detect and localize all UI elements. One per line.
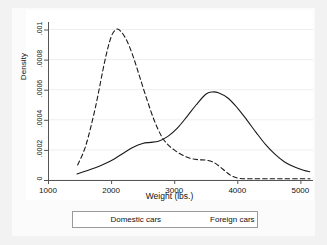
y-tick-label: .0008 xyxy=(36,43,43,73)
legend: Domestic carsForeign cars xyxy=(72,211,258,228)
legend-label: Foreign cars xyxy=(210,215,254,224)
legend-key-solid xyxy=(75,219,105,220)
y-tick-label: .0002 xyxy=(36,133,43,163)
axis-ticks xyxy=(44,30,301,184)
legend-entry[interactable]: Domestic cars xyxy=(75,215,161,224)
legend-label: Domestic cars xyxy=(110,215,161,224)
axis-lines xyxy=(48,22,313,181)
legend-key-dashed xyxy=(175,219,205,220)
x-axis-title: Weight (lbs.) xyxy=(26,191,313,201)
y-tick-label: .0006 xyxy=(36,73,43,103)
axis-layer xyxy=(0,0,327,245)
y-tick-label: .0004 xyxy=(36,103,43,133)
y-tick-label: .001 xyxy=(36,13,43,43)
chart-screenshot: Density 0.0002.0004.0006.0008.001 100020… xyxy=(0,0,327,245)
legend-entry[interactable]: Foreign cars xyxy=(175,215,254,224)
